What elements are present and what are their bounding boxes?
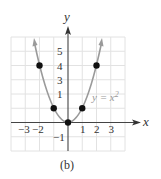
x-tick-1: 1: [80, 123, 86, 135]
x-tick-3: 3: [109, 123, 115, 135]
curve-arrow-left-icon: [33, 38, 38, 47]
parabola-chart: y x −3 −2 1 2 3 5 4 3 1 −1 y = x2 (b): [0, 0, 161, 179]
y-tick-1: 1: [57, 88, 63, 100]
x-tick-2: 2: [94, 123, 100, 135]
point-1-1: [79, 105, 85, 111]
x-tick-neg2: −2: [32, 123, 44, 135]
curve-arrow-right-icon: [99, 38, 104, 47]
point-0-0: [65, 119, 71, 125]
y-tick-3: 3: [57, 74, 63, 86]
point-neg2-4: [36, 62, 42, 68]
y-axis-label: y: [62, 9, 70, 24]
x-tick-neg3: −3: [18, 123, 30, 135]
y-tick-4: 4: [57, 60, 63, 72]
y-tick-neg1: −1: [53, 131, 65, 143]
x-axis-label: x: [142, 114, 149, 129]
figure-caption: (b): [60, 158, 74, 172]
point-2-4: [93, 62, 99, 68]
equation-label: y = x2: [91, 90, 119, 103]
y-tick-5: 5: [57, 45, 63, 57]
point-neg1-1: [51, 105, 57, 111]
